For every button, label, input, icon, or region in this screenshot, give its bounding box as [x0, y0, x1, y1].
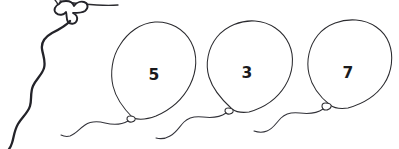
balloon-7-number: 7: [343, 64, 354, 82]
illustration-canvas: 5 3 7: [0, 0, 399, 149]
balloon-5-number: 5: [149, 66, 160, 84]
balloons-scene: 5 3 7: [0, 0, 399, 149]
balloon-3-number: 3: [242, 64, 253, 82]
